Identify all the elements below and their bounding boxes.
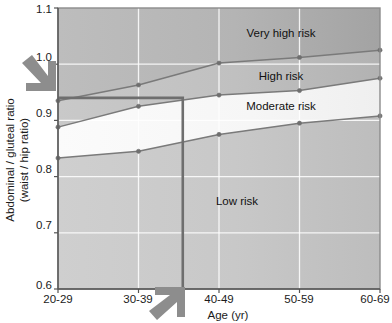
y-axis-title-line-1: Abdominal / gluteal ratio bbox=[4, 98, 16, 221]
data-point-marker bbox=[217, 132, 221, 136]
zone-label-very-high-risk: Very high risk bbox=[246, 27, 315, 39]
x-tick-label-50-59: 50-59 bbox=[284, 293, 313, 305]
x-tick-label-60-69: 60-69 bbox=[360, 293, 389, 305]
bottom-arrow-annotation bbox=[149, 287, 185, 320]
x-tick-label-40-49: 40-49 bbox=[204, 293, 233, 305]
data-point-marker bbox=[217, 93, 221, 97]
data-point-marker bbox=[136, 83, 140, 87]
y-tick-label-0-8: 0.8 bbox=[36, 163, 52, 175]
y-tick-label-0-6: 0.6 bbox=[36, 279, 52, 291]
data-point-marker bbox=[297, 55, 301, 59]
data-point-marker bbox=[136, 149, 140, 153]
zone-label-low-risk: Low risk bbox=[216, 195, 258, 207]
data-point-marker bbox=[297, 121, 301, 125]
chart-figure: 1.1 1.0 0.9 0.8 0.7 0.6 20-29 30-39 40-4… bbox=[0, 0, 392, 323]
x-tick-label-20-29: 20-29 bbox=[43, 293, 72, 305]
y-axis-title-line-2: (waist / hip ratio) bbox=[18, 118, 30, 203]
x-tick-label-30-39: 30-39 bbox=[123, 293, 152, 305]
x-axis-title: Age (yr) bbox=[208, 309, 249, 321]
risk-chart-svg: 1.1 1.0 0.9 0.8 0.7 0.6 20-29 30-39 40-4… bbox=[0, 0, 392, 323]
y-tick-label-1-1: 1.1 bbox=[36, 3, 52, 15]
data-point-marker bbox=[297, 89, 301, 93]
data-point-marker bbox=[136, 104, 140, 108]
zone-label-high-risk: High risk bbox=[259, 70, 304, 82]
up-right-arrow-icon bbox=[149, 287, 185, 320]
data-point-marker bbox=[217, 61, 221, 65]
y-tick-label-0-7: 0.7 bbox=[36, 219, 52, 231]
y-tick-label-0-9: 0.9 bbox=[36, 107, 52, 119]
zone-label-moderate-risk: Moderate risk bbox=[246, 100, 316, 112]
